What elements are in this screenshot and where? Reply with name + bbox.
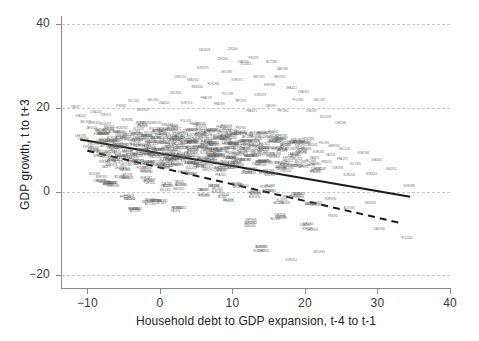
scatter-point-label: HUN1972 — [116, 127, 127, 130]
x-axis-title: Household debt to GDP expansion, t-4 to … — [62, 314, 450, 328]
scatter-point-label: AUT1980 — [266, 62, 277, 65]
scatter-point-label: NOR1984 — [88, 123, 100, 126]
scatter-point-label: IDN2002 — [219, 195, 229, 198]
scatter-point-label: KOR1998 — [358, 153, 369, 156]
scatter-point-label: PRT2006 — [120, 197, 131, 200]
y-tick-mark-0 — [56, 192, 62, 193]
scatter-point-label: FRA2012 — [215, 174, 226, 177]
scatter-point-label: NZL1981 — [264, 174, 275, 177]
scatter-point-label: ITA2011 — [169, 126, 178, 129]
scatter-point-label: AUS2007 — [262, 191, 273, 194]
scatter-point-label: JPN1999 — [272, 138, 283, 141]
scatter-point-label: MEX2005 — [191, 86, 202, 89]
scatter-point-label: USA1974 — [298, 92, 309, 95]
scatter-point-label: HUN1983 — [302, 139, 313, 142]
scatter-point-label: THA1983 — [309, 164, 320, 167]
scatter-plot-figure: CHE1995USA1998BEL1978ESP1981ZAF2013DEU19… — [0, 0, 479, 341]
scatter-point-label: THA2004 — [192, 160, 203, 163]
scatter-point-label: FIN1993 — [319, 143, 329, 146]
y-tick-label-40: 40 — [18, 16, 50, 30]
x-tick-label-30: 30 — [357, 296, 397, 310]
scatter-point-label: HUN1984 — [207, 84, 218, 87]
scatter-point-label: NOR2000 — [344, 174, 356, 177]
scatter-point-label: GBR1992 — [150, 123, 161, 126]
scatter-point-label: TUR1996 — [332, 168, 343, 171]
scatter-point-label: GRC1978 — [313, 99, 325, 102]
scatter-point-label: GRC1973 — [253, 77, 265, 80]
x-tick-label-40: 40 — [430, 296, 470, 310]
scatter-point-label: DEU1974 — [195, 126, 206, 129]
scatter-point-label: AUS1978 — [250, 194, 261, 197]
x-tick-mark--10 — [87, 288, 88, 294]
scatter-point-label: DNK1974 — [175, 76, 186, 79]
scatter-point-label: POL2006 — [221, 126, 232, 129]
scatter-point-label: TUR1992 — [144, 183, 155, 186]
scatter-point-label: FRA1972 — [337, 158, 348, 161]
scatter-point-label: TUR1975 — [100, 114, 111, 117]
scatter-point-label: TUR1976 — [258, 250, 269, 253]
scatter-point-label: NOR2001 — [366, 173, 378, 176]
scatter-point-label: NOR1988 — [269, 153, 281, 156]
y-tick-mark--20 — [56, 275, 62, 276]
scatter-point-label: NZL2013 — [160, 189, 171, 192]
scatter-point-label: GBR1989 — [144, 180, 155, 183]
scatter-point-label: MEX2011 — [173, 188, 184, 191]
scatter-point-label: BEL1993 — [171, 164, 182, 167]
scatter-point-label: JPN2010 — [309, 172, 320, 175]
scatter-point-label: SWE1971 — [160, 168, 172, 171]
scatter-point-label: GBR1985 — [122, 178, 133, 181]
scatter-point-label: THA1975 — [230, 134, 241, 137]
scatter-point-label: CZE2000 — [227, 49, 238, 52]
scatter-point-label: ZAF1974 — [298, 167, 309, 170]
scatter-point-label: PRT2013 — [147, 144, 158, 147]
scatter-point-label: KOR2004 — [248, 155, 259, 158]
scatter-point-label: FIN2009 — [88, 148, 98, 151]
scatter-point-label: CAN2010 — [306, 144, 317, 147]
scatter-point-label: ESP1994 — [94, 133, 105, 136]
scatter-point-label: USA2001 — [119, 169, 130, 172]
scatter-point-label: SWE1971 — [310, 203, 322, 206]
scatter-point-label: NOR1981 — [121, 120, 133, 123]
scatter-point-label: ITA1974 — [171, 211, 181, 214]
scatter-point-label: NZL1976 — [350, 163, 361, 166]
y-axis-title: GDP growth, t to t+3 — [18, 99, 32, 210]
scatter-point-label: NLD1980 — [255, 247, 266, 250]
scatter-point-label: BEL1989 — [266, 156, 277, 159]
scatter-point-label: GBR1996 — [245, 173, 256, 176]
x-tick-label-10: 10 — [212, 296, 252, 310]
scatter-point-label: KOR1996 — [155, 134, 166, 137]
x-tick-mark-0 — [160, 288, 161, 294]
scatter-point-label: FIN1994 — [236, 128, 246, 131]
scatter-point-label: TUR2008 — [274, 214, 285, 217]
scatter-point-label: BEL1980 — [148, 100, 159, 103]
scatter-point-label: ESP1998 — [264, 85, 275, 88]
scatter-point-label: NLD1974 — [133, 129, 144, 132]
scatter-point-label: ITA1976 — [326, 155, 336, 158]
scatter-point-label: PRT1986 — [226, 138, 237, 141]
scatter-point-label: NZL2004 — [170, 93, 181, 96]
scatter-point-label: KOR1996 — [141, 172, 152, 175]
scatter-point-label: FRA1971 — [246, 111, 257, 114]
scatter-point-label: TUR1987 — [306, 111, 317, 114]
scatter-point-label: AUS1984 — [344, 208, 355, 211]
x-tick-mark-30 — [377, 288, 378, 294]
scatter-point-label: NZL2002 — [128, 100, 139, 103]
scatter-point-label: CHE1985 — [276, 217, 287, 220]
scatter-point-label: GRC1993 — [313, 251, 325, 254]
scatter-point-label: ITA1977 — [71, 107, 81, 110]
scatter-point-label: BEL2008 — [305, 160, 316, 163]
x-tick-mark-10 — [232, 288, 233, 294]
scatter-point-label: GRC1982 — [177, 172, 189, 175]
plot-area: CHE1995USA1998BEL1978ESP1981ZAF2013DEU19… — [62, 16, 450, 288]
scatter-point-label: MEX1991 — [274, 77, 285, 80]
x-tick-label-0: 0 — [140, 296, 180, 310]
scatter-point-label: GBR1997 — [202, 170, 213, 173]
scatter-point-label: THA2007 — [75, 115, 86, 118]
scatter-point-label: DNK2013 — [248, 141, 259, 144]
scatter-point-label: NOR1980 — [280, 165, 292, 168]
scatter-point-label: ESP1994 — [140, 123, 151, 126]
y-tick-mark-40 — [56, 24, 62, 25]
scatter-point-label: AUT1999 — [100, 182, 111, 185]
scatter-point-label: CAN1977 — [252, 139, 263, 142]
scatter-point-label: USA2002 — [371, 160, 382, 163]
